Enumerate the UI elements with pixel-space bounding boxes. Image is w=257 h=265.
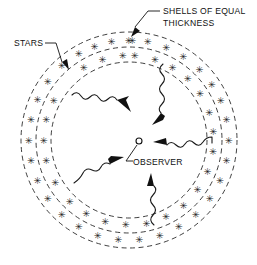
middle-shell-boundary — [36, 47, 222, 233]
ray-lower-left-arrowhead — [108, 156, 124, 164]
shells-leader-line — [135, 11, 160, 27]
star-icon: ✳ — [169, 62, 177, 73]
star-icon: ✳ — [119, 50, 127, 61]
star-icon: ✳ — [223, 114, 231, 125]
star-icon: ✳ — [122, 219, 130, 230]
star-icon: ✳ — [143, 218, 151, 229]
star-icon: ✳ — [217, 95, 225, 106]
star-icon: ✳ — [44, 193, 52, 204]
star-icon: ✳ — [151, 54, 159, 65]
star-icon: ✳ — [75, 48, 83, 59]
ray-lower-left — [74, 163, 110, 183]
star-icon: ✳ — [156, 230, 164, 241]
star-icon: ✳ — [102, 216, 110, 227]
star-icon: ✳ — [162, 42, 170, 53]
figure-canvas: ✳✳✳✳✳✳✳✳✳✳✳✳✳✳✳✳✳✳✳✳✳✳✳✳✳✳✳✳✳✳✳✳✳✳✳✳✳✳✳✳… — [0, 0, 257, 265]
star-icon: ✳ — [192, 209, 200, 220]
inner-shell-boundary — [51, 62, 207, 218]
ray-bottom — [151, 186, 156, 225]
ray-upper-right — [159, 64, 164, 113]
star-icon: ✳ — [91, 41, 99, 52]
star-icon: ✳ — [184, 73, 192, 84]
star-icon: ✳ — [216, 175, 224, 186]
star-icon: ✳ — [115, 234, 123, 245]
shells-label-line1: SHELLS OF EQUAL — [163, 6, 246, 16]
star-icon: ✳ — [209, 146, 217, 157]
star-icon: ✳ — [66, 196, 74, 207]
star-icon: ✳ — [43, 114, 51, 125]
star-icon: ✳ — [131, 50, 139, 61]
shells-label-line2: THICKNESS — [163, 18, 214, 28]
stars-group: ✳✳✳✳✳✳✳✳✳✳✳✳✳✳✳✳✳✳✳✳✳✳✳✳✳✳✳✳✳✳✳✳✳✳✳✳✳✳✳✳… — [25, 35, 233, 245]
star-icon: ✳ — [51, 177, 59, 188]
ray-bottom-arrowhead — [147, 173, 154, 186]
star-icon: ✳ — [75, 221, 83, 232]
ray-upper-left-arrowhead — [117, 96, 131, 112]
star-icon: ✳ — [99, 54, 107, 65]
ray-right-arrowhead — [153, 138, 167, 145]
star-icon: ✳ — [210, 126, 218, 137]
observer-label: OBSERVER — [133, 157, 183, 167]
star-icon: ✳ — [223, 155, 231, 166]
light-rays-group — [72, 64, 212, 225]
observer-circle-icon — [136, 138, 142, 144]
star-icon: ✳ — [43, 155, 51, 166]
star-icon: ✳ — [108, 36, 116, 47]
star-icon: ✳ — [58, 209, 66, 220]
star-icon: ✳ — [196, 88, 204, 99]
stars-label: STARS — [14, 38, 43, 48]
star-icon: ✳ — [179, 51, 187, 62]
star-icon: ✳ — [208, 79, 216, 90]
star-icon: ✳ — [40, 135, 48, 146]
ray-upper-right-arrowhead — [152, 113, 165, 125]
star-icon: ✳ — [144, 36, 152, 47]
star-icon: ✳ — [44, 76, 52, 87]
star-icon: ✳ — [27, 155, 35, 166]
star-icon: ✳ — [196, 64, 204, 75]
ray-right — [167, 137, 212, 147]
star-icon: ✳ — [94, 230, 102, 241]
star-icon: ✳ — [83, 208, 91, 219]
star-icon: ✳ — [180, 200, 188, 211]
star-icon: ✳ — [34, 94, 42, 105]
star-icon: ✳ — [25, 135, 33, 146]
star-icon: ✳ — [50, 95, 58, 106]
stars-leader-line — [45, 43, 62, 62]
ray-upper-left — [72, 93, 117, 102]
shells-diagram: ✳✳✳✳✳✳✳✳✳✳✳✳✳✳✳✳✳✳✳✳✳✳✳✳✳✳✳✳✳✳✳✳✳✳✳✳✳✳✳✳… — [0, 0, 257, 265]
star-icon: ✳ — [194, 184, 202, 195]
star-icon: ✳ — [135, 234, 143, 245]
star-icon: ✳ — [162, 211, 170, 222]
star-icon: ✳ — [205, 107, 213, 118]
star-icon: ✳ — [204, 166, 212, 177]
star-icon: ✳ — [175, 221, 183, 232]
star-icon: ✳ — [34, 175, 42, 186]
star-icon: ✳ — [206, 193, 214, 204]
star-icon: ✳ — [225, 135, 233, 146]
star-icon: ✳ — [80, 62, 88, 73]
star-icon: ✳ — [27, 114, 35, 125]
